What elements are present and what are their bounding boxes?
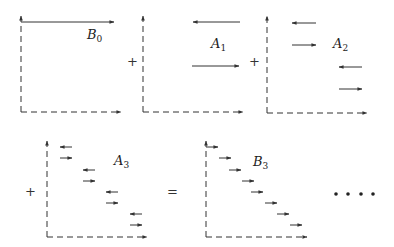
plus-operator: + (249, 54, 260, 69)
panel-label: B0 (86, 27, 103, 44)
panel-B3: B3 (206, 141, 307, 237)
panel-A2: A2 (267, 16, 367, 113)
panel-label: A3 (113, 153, 129, 170)
equals-operator: = (167, 184, 178, 199)
panel-label: A2 (332, 36, 348, 53)
plus-operator: + (127, 54, 138, 69)
panel-A3: A3 (47, 141, 147, 237)
panel-B0: B0 (21, 16, 121, 112)
diagram-canvas: B0 A1 A2 A3 (0, 0, 394, 247)
plus-operator: + (25, 184, 36, 199)
panel-label: A1 (210, 36, 226, 53)
ellipsis-dots (334, 192, 375, 196)
panel-label: B3 (252, 154, 269, 171)
panel-A1: A1 (143, 16, 243, 112)
